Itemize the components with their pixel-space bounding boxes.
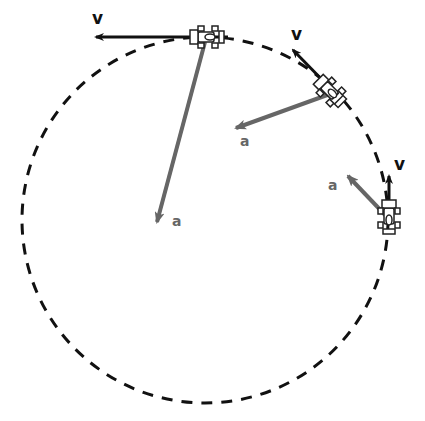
race-car-icon (190, 26, 226, 48)
velocity-label-upper-right: v (291, 24, 302, 44)
velocity-label-right: v (394, 154, 405, 174)
acceleration-arrow-top (157, 42, 205, 222)
acceleration-arrow-upper-right (236, 94, 330, 128)
race-car-icon (310, 71, 350, 111)
acceleration-label-right: a (328, 177, 337, 193)
acceleration-label-upper-right: a (240, 133, 249, 149)
race-car-icon (378, 200, 400, 234)
circular-motion-diagram: v a v a (0, 0, 425, 421)
car-right-group: v a (328, 154, 405, 234)
diagram-canvas: v a v a (0, 0, 425, 421)
acceleration-label-top: a (172, 213, 181, 229)
car-top-group: v a (92, 8, 228, 229)
velocity-label-top: v (92, 8, 103, 28)
